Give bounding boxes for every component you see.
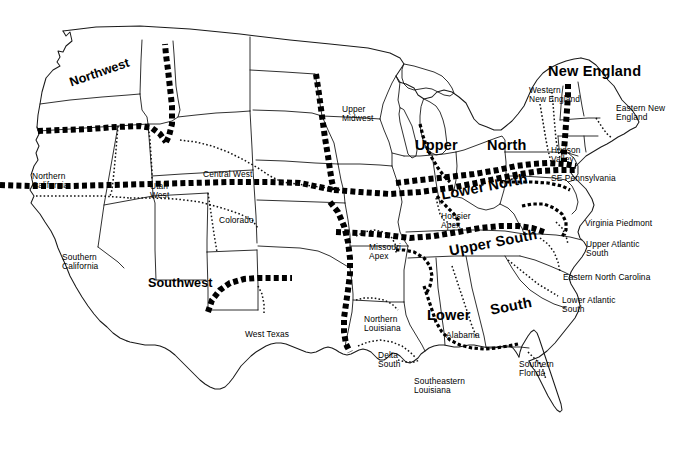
boundary-north-dakota-south — [316, 74, 334, 190]
boundary-colorado-subregion — [208, 193, 217, 252]
state-line-nd-sd — [250, 70, 315, 74]
sublabel-hudson-valley: Hudson Valley — [551, 146, 580, 164]
region-label-new-england: New England — [548, 64, 641, 79]
sublabel-missouri-apex: Missouri Apex — [369, 243, 401, 261]
state-line-mn-east — [380, 76, 396, 119]
boundary-north-midland-west — [38, 126, 166, 142]
sublabel-upper-atlantic-south: Upper Atlantic South — [586, 240, 640, 258]
boundary-alabama-subregion — [452, 266, 476, 336]
state-line-ar-east — [404, 246, 408, 302]
sublabel-southern-florida: Southern Florida — [519, 360, 554, 378]
sublabel-virginia-piedmont: Virginia Piedmont — [585, 219, 652, 228]
sublabel-northern-louisiana: Northern Louisiana — [364, 315, 401, 333]
region-label-upper-north-upper: Upper — [415, 138, 458, 153]
region-label-lower-south-lower: Lower — [427, 308, 471, 323]
state-line-co-west — [207, 193, 208, 252]
region-label-southwest: Southwest — [148, 277, 213, 290]
state-line-ia-east — [380, 119, 392, 166]
state-line-ar-la — [353, 300, 404, 302]
state-line-mt-wy — [178, 111, 250, 117]
sublabel-delta-south: Delta South — [378, 351, 400, 369]
state-line-co-south — [207, 250, 257, 252]
state-line-plains-east-3 — [338, 164, 345, 203]
sublabel-western-new-england: Western New England — [529, 86, 580, 104]
boundary-eastern-north-carolina — [540, 238, 560, 272]
boundary-northern-louisiana — [356, 298, 398, 310]
sublabel-southern-california: Southern California — [62, 253, 98, 271]
national-outline-group — [30, 26, 639, 412]
sublabel-alabama: Alabama — [446, 331, 480, 340]
state-line-id-west — [140, 94, 148, 124]
state-line-md-de — [566, 180, 578, 214]
dialect-map: Northwest Southwest Upper North Lower No… — [0, 0, 689, 451]
sublabel-hoosier-apex: Hoosier Apex — [441, 212, 471, 230]
sublabel-se-pennsylvania: SE Pennsylvania — [551, 174, 616, 183]
boundary-texas-southwest — [208, 278, 292, 312]
state-line-wa-or — [40, 94, 140, 104]
boundary-eastern-new-england — [596, 118, 612, 138]
sublabel-upper-midwest: Upper Midwest — [342, 105, 373, 123]
sublabel-eastern-new-england: Eastern New England — [616, 104, 665, 122]
state-line-il-north — [404, 155, 432, 156]
michigan-upper-peninsula — [402, 64, 454, 96]
state-line-ok-tx — [258, 246, 350, 268]
sublabel-colorado: Colorado — [219, 216, 254, 225]
state-line-wy-east — [250, 111, 253, 170]
state-line-wa-id — [140, 40, 142, 94]
sublabel-central-west: Central West — [203, 170, 252, 179]
boundary-west-texas — [258, 286, 264, 314]
region-label-upper-north-north: North — [487, 138, 527, 153]
sublabel-eastern-north-carolina: Eastern North Carolina — [563, 273, 650, 282]
boundary-texas-east — [330, 202, 350, 352]
state-line-ne-ks — [256, 160, 338, 164]
state-line-ca-az — [98, 247, 124, 268]
boundary-north-midland-dakota — [165, 44, 172, 142]
state-line-la-ms — [404, 302, 425, 351]
sublabel-southeastern-louisiana: Southeastern Louisiana — [414, 377, 465, 395]
boundary-northern-california — [36, 196, 130, 198]
state-line-wi-il — [392, 153, 404, 156]
boundary-southeastern-louisiana — [398, 360, 420, 362]
boundary-upper-south-appalachia — [396, 250, 432, 294]
state-line-ct-ri — [584, 136, 586, 152]
state-line-sd-ne — [253, 110, 322, 116]
boundary-lower-atlantic-south — [508, 260, 558, 296]
state-line-az-nm — [153, 196, 156, 280]
state-line-id-mt — [148, 41, 180, 124]
state-line-ia-mo — [338, 164, 392, 166]
sublabel-lower-atlantic-south: Lower Atlantic South — [562, 296, 616, 314]
sublabel-west-texas: West Texas — [245, 330, 289, 339]
sublabel-utah-west: Utah West — [150, 182, 169, 200]
sublabel-northern-california: Northern California — [32, 172, 68, 190]
